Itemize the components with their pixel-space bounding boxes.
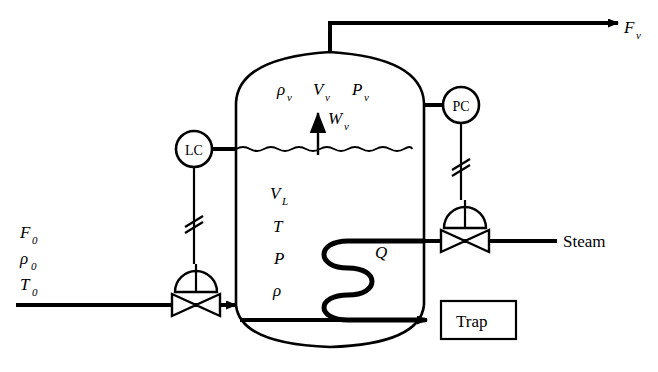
feed-valve-body-right[interactable]: [196, 294, 220, 316]
steam-label: Steam: [563, 232, 606, 251]
feed-temperature-label: T: [20, 275, 31, 294]
vessel-bottom-head: [236, 305, 424, 347]
liquid-pressure-label: P: [273, 249, 284, 268]
feed-valve-body-left[interactable]: [172, 294, 196, 316]
vapor-outlet-pipe: [330, 23, 618, 52]
vapor-outlet-label: F: [623, 18, 635, 37]
level-controller-tag: LC: [185, 143, 203, 158]
vessel-top-head: [236, 52, 424, 103]
steam-valve-body-right[interactable]: [465, 230, 489, 252]
vapor-density-label: ρ: [276, 80, 285, 99]
vapor-mass-flow-label: W: [328, 109, 344, 128]
vapor-density-sub: v: [287, 91, 292, 103]
vapor-pressure-sub: v: [364, 91, 369, 103]
feed-density-sub: 0: [31, 260, 37, 272]
steam-valve-body-left[interactable]: [441, 230, 465, 252]
feed-flow-sub: 0: [32, 234, 38, 246]
heat-duty-label: Q: [375, 243, 387, 262]
steam-trap-label: Trap: [456, 312, 488, 331]
feed-flow-label: F: [19, 223, 31, 242]
feed-density-label: ρ: [19, 249, 28, 268]
liquid-density-label: ρ: [272, 281, 281, 300]
liquid-level-surface: [236, 147, 412, 151]
liquid-temperature-label: T: [273, 217, 284, 236]
pfd-canvas: F v ρ v V v P v W v V L T P ρ Q Steam: [0, 0, 658, 372]
vapor-pressure-label: P: [351, 80, 362, 99]
liquid-volume-sub: L: [281, 195, 288, 207]
vapor-outlet-label-sub: v: [636, 29, 641, 41]
heating-coil: [324, 241, 424, 320]
process-flow-diagram: F v ρ v V v P v W v V L T P ρ Q Steam: [0, 0, 658, 372]
feed-temperature-sub: 0: [32, 286, 38, 298]
vapor-volume-sub: v: [325, 91, 330, 103]
pressure-controller-tag: PC: [452, 99, 469, 114]
vapor-mass-flow-sub: v: [344, 120, 349, 132]
